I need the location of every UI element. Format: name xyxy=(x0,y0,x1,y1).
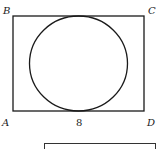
geometry-diagram: B C A D 8 xyxy=(0,0,162,149)
answer-box[interactable] xyxy=(45,144,156,150)
vertex-label-c: C xyxy=(148,5,156,16)
vertex-label-b: B xyxy=(2,5,10,16)
vertex-label-a: A xyxy=(1,117,9,128)
vertex-label-d: D xyxy=(146,117,155,128)
side-length-label: 8 xyxy=(76,117,82,128)
rectangle-abcd xyxy=(13,16,144,111)
